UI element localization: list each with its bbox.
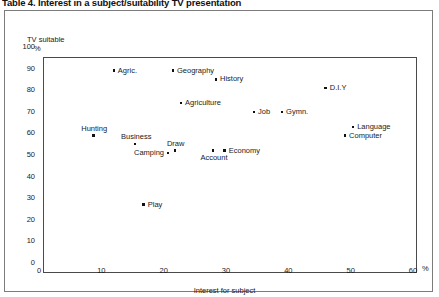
data-point-marker <box>212 149 215 152</box>
y-tick-label-70: 70 <box>11 108 35 116</box>
data-point-label: Agric. <box>118 67 137 75</box>
y-tick-label-100: 100 <box>11 43 35 51</box>
data-point-label: Language <box>357 123 390 131</box>
y-tick-label-90: 90 <box>11 65 35 73</box>
data-point-marker <box>215 78 218 81</box>
y-tick-label-60: 60 <box>11 129 35 137</box>
table-caption: Table 4. Interest in a subject/suitabili… <box>2 0 302 8</box>
y-tick-label-30: 30 <box>11 194 35 202</box>
data-point-marker <box>167 152 170 155</box>
data-point-marker <box>172 69 175 72</box>
x-axis-title: Interest for subject <box>5 286 439 295</box>
y-tick-label-50: 50 <box>11 151 35 159</box>
data-point-label: Geography <box>177 67 214 75</box>
data-point-label: Draw <box>167 140 185 148</box>
data-point-marker <box>174 149 177 152</box>
x-tick-label-10: 10 <box>89 267 113 275</box>
data-point-marker <box>324 87 327 90</box>
data-point-label: Camping <box>134 149 164 157</box>
plot-area <box>43 57 417 273</box>
data-point-marker <box>134 143 137 146</box>
data-point-label: Account <box>200 154 227 162</box>
data-point-label: Hunting <box>81 125 107 133</box>
data-point-marker <box>281 111 284 114</box>
data-point-marker <box>113 69 116 72</box>
y-tick-label-0: 0 <box>11 259 35 267</box>
y-tick-label-40: 40 <box>11 173 35 181</box>
data-point-label: Gymn. <box>286 108 308 116</box>
data-point-marker <box>253 111 256 114</box>
x-tick-label-50: 50 <box>339 267 363 275</box>
data-point-label: History <box>220 75 243 83</box>
data-point-label: Business <box>121 133 151 141</box>
x-tick-label-20: 20 <box>152 267 176 275</box>
data-point-marker <box>92 134 95 137</box>
data-point-marker <box>223 149 226 152</box>
data-point-label: D.I.Y <box>330 84 347 92</box>
x-tick-label-40: 40 <box>276 267 300 275</box>
y-tick-label-20: 20 <box>11 216 35 224</box>
data-point-label: Play <box>148 201 163 209</box>
y-axis-unit: % <box>34 44 41 53</box>
data-point-label: Economy <box>229 147 260 155</box>
data-point-marker <box>352 126 355 129</box>
data-point-marker <box>142 203 145 206</box>
y-tick-label-80: 80 <box>11 86 35 94</box>
data-point-label: Computer <box>349 132 382 140</box>
data-point-marker <box>344 134 347 137</box>
x-tick-label-30: 30 <box>214 267 238 275</box>
y-tick-label-10: 10 <box>11 237 35 245</box>
data-point-label: Job <box>258 108 270 116</box>
data-point-label: Agriculture <box>185 99 221 107</box>
x-tick-label-0: 0 <box>27 267 51 275</box>
x-axis-unit: % <box>422 264 429 273</box>
data-point-marker <box>180 102 183 105</box>
figure-container: TV suitable % 0102030405060708090100 010… <box>4 10 433 292</box>
